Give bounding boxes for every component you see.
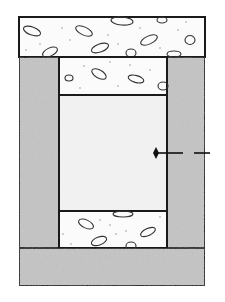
- bottom-gray-base: [19, 248, 205, 286]
- wall-section-diagram: [0, 0, 225, 302]
- center-core: [59, 95, 167, 211]
- left-gray-column: [19, 57, 59, 248]
- top-concrete-band: [19, 16, 205, 59]
- lower-inner-concrete: [59, 211, 167, 250]
- upper-inner-concrete: [59, 57, 168, 95]
